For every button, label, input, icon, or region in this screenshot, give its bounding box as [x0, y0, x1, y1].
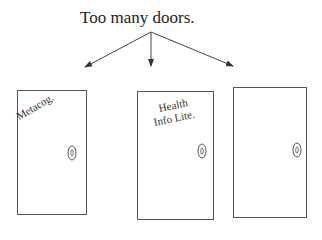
door-3	[234, 88, 307, 218]
door-knob-icon	[293, 143, 301, 157]
arrow-left-icon	[85, 32, 151, 67]
door-knob-inner-icon	[296, 147, 299, 153]
door-knob-icon	[68, 146, 76, 160]
arrow-right-icon	[151, 32, 233, 66]
arrow-group	[85, 32, 233, 67]
door-knob-icon	[198, 144, 206, 158]
door-knob-inner-icon	[71, 150, 74, 156]
door-knob-inner-icon	[201, 148, 204, 154]
